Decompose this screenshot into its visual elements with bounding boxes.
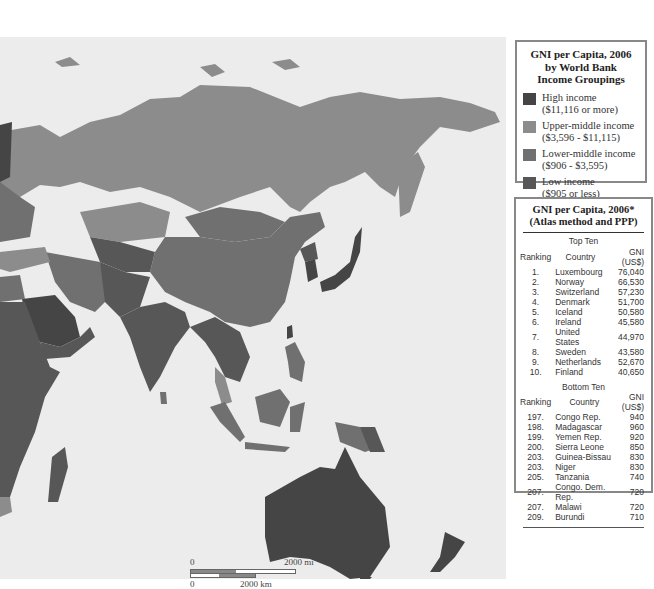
rank-cell: 7. — [520, 327, 551, 347]
country-cell: Luxembourg — [551, 267, 606, 277]
country-cell: Niger — [551, 462, 613, 472]
rank-cell: 10. — [520, 367, 551, 377]
legend-title: GNI per Capita, 2006 by World Bank Incom… — [523, 48, 639, 86]
rank-cell: 4. — [520, 297, 551, 307]
table-row: 7.United States44,970 — [520, 327, 647, 347]
region-mongolia — [185, 207, 285, 242]
table-row: 205.Tanzania740 — [520, 472, 647, 482]
map-svg — [0, 37, 506, 579]
gni-cell: 45,580 — [606, 317, 647, 327]
region-sumatra — [210, 402, 245, 442]
gni-cell: 52,670 — [606, 357, 647, 367]
gni-cell: 51,700 — [606, 297, 647, 307]
region-egypt — [0, 275, 25, 302]
top-ten-table: Ranking Country GNI (US$) 1.Luxembourg76… — [520, 247, 647, 377]
table-row: 197.Congo Rep.940 — [520, 412, 647, 422]
region-philippines — [285, 342, 305, 382]
bottom-ten-table: Ranking Country GNI (US$) 197.Congo Rep.… — [520, 392, 647, 522]
country-cell: Sierra Leone — [551, 442, 613, 452]
table-row: 3.Switzerland57,230 — [520, 287, 647, 297]
region-borneo — [255, 389, 290, 427]
rank-cell: 209. — [520, 512, 551, 522]
top-ten-heading: Top Ten — [520, 236, 647, 247]
rank-cell: 3. — [520, 287, 551, 297]
region-sulawesi — [290, 402, 305, 432]
rank-cell: 9. — [520, 357, 551, 367]
bottom-ten-heading: Bottom Ten — [520, 382, 647, 393]
scale-mi-label: 2000 mi — [284, 557, 314, 567]
country-cell: Denmark — [551, 297, 606, 307]
table-row: 5.Iceland50,580 — [520, 307, 647, 317]
rank-cell: 6. — [520, 317, 551, 327]
gni-ranking-table: GNI per Capita, 2006* (Atlas method and … — [514, 197, 653, 493]
gni-cell: 66,530 — [606, 277, 647, 287]
country-cell: Malawi — [551, 502, 613, 512]
country-cell: United States — [551, 327, 606, 347]
ranking-title: GNI per Capita, 2006* (Atlas method and … — [520, 204, 647, 228]
country-cell: Norway — [551, 277, 606, 287]
legend-item-high-income: High income($11,116 or more) — [523, 92, 639, 116]
table-row: 1.Luxembourg76,040 — [520, 267, 647, 277]
low-income-swatch — [523, 177, 536, 189]
gni-cell: 830 — [613, 462, 647, 472]
gni-cell: 44,970 — [606, 327, 647, 347]
region-arctic-islands — [55, 57, 300, 77]
country-cell: Madagascar — [551, 422, 613, 432]
rank-cell: 199. — [520, 432, 551, 442]
region-kazakhstan — [80, 202, 170, 242]
upper-middle-income-swatch — [523, 121, 536, 133]
table-row: 6.Ireland45,580 — [520, 317, 647, 327]
rank-cell: 1. — [520, 267, 551, 277]
region-russia — [0, 85, 500, 212]
region-japan — [320, 227, 362, 292]
scale-bar-km — [190, 573, 256, 578]
rank-cell: 2. — [520, 277, 551, 287]
high-income-swatch — [523, 93, 536, 105]
country-cell: Iceland — [551, 307, 606, 317]
gni-cell: 40,650 — [606, 367, 647, 377]
country-cell: Yemen Rep. — [551, 432, 613, 442]
table-row: 4.Denmark51,700 — [520, 297, 647, 307]
gni-cell: 50,580 — [606, 307, 647, 317]
rank-cell: 205. — [520, 472, 551, 482]
country-cell: Netherlands — [551, 357, 606, 367]
region-madagascar — [48, 447, 68, 502]
region-java — [245, 442, 290, 452]
table-row: 2.Norway66,530 — [520, 277, 647, 287]
country-cell: Congo. Dem. Rep. — [551, 482, 613, 502]
country-cell: Congo Rep. — [551, 412, 613, 422]
gni-cell: 43,580 — [606, 347, 647, 357]
gni-cell: 710 — [613, 512, 647, 522]
country-cell: Guinea-Bissau — [551, 452, 613, 462]
country-cell: Burundi — [551, 512, 613, 522]
lower-middle-income-swatch — [523, 149, 536, 161]
world-map-asia-pacific: 0 2000 mi 0 2000 km — [0, 37, 506, 579]
table-row: 200.Sierra Leone850 — [520, 442, 647, 452]
rank-cell: 5. — [520, 307, 551, 317]
gni-cell: 940 — [613, 412, 647, 422]
divider — [523, 232, 644, 233]
table-row: 10.Finland40,650 — [520, 367, 647, 377]
gni-cell: 740 — [613, 472, 647, 482]
rank-cell: 197. — [520, 412, 551, 422]
legend-item-low-income: Low income($905 or less) — [523, 176, 639, 200]
country-cell: Switzerland — [551, 287, 606, 297]
table-row: 8.Sweden43,580 — [520, 347, 647, 357]
region-turkey — [0, 247, 50, 272]
country-cell: Finland — [551, 367, 606, 377]
table-row: 203.Niger830 — [520, 462, 647, 472]
country-cell: Sweden — [551, 347, 606, 357]
table-row: 203.Guinea-Bissau830 — [520, 452, 647, 462]
country-cell: Ireland — [551, 317, 606, 327]
region-sri-lanka — [160, 392, 167, 404]
legend-item-lower-middle-income: Lower-middle income($906 - $3,595) — [523, 148, 639, 172]
gni-cell: 57,230 — [606, 287, 647, 297]
table-row: 199.Yemen Rep.920 — [520, 432, 647, 442]
rank-cell: 200. — [520, 442, 551, 452]
gni-cell: 720 — [613, 482, 647, 502]
scale-km-label: 2000 km — [240, 579, 272, 589]
rank-cell: 207. — [520, 482, 551, 502]
gni-cell: 76,040 — [606, 267, 647, 277]
table-row: 207.Malawi720 — [520, 502, 647, 512]
gni-cell: 850 — [613, 442, 647, 452]
